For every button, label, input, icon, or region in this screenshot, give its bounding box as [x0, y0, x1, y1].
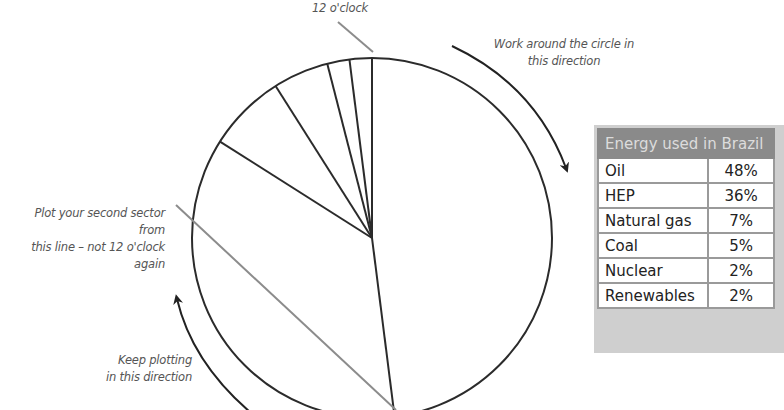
energy-table: Energy used in Brazil Oil48% HEP36% Natu… — [597, 128, 775, 309]
annotation-text: Keep plotting — [100, 352, 192, 369]
annotation-text: this direction — [484, 53, 644, 70]
row-label: Coal — [598, 233, 708, 258]
row-label: HEP — [598, 183, 708, 208]
row-value: 2% — [708, 258, 774, 283]
sector-lines — [220, 58, 395, 410]
annotation-text: 12 o'clock — [312, 0, 368, 17]
row-value: 7% — [708, 208, 774, 233]
row-label: Natural gas — [598, 208, 708, 233]
row-value: 5% — [708, 233, 774, 258]
annotation-second-sector: Plot your second sector from this line –… — [8, 205, 165, 273]
table-row: HEP36% — [598, 183, 774, 208]
row-value: 48% — [708, 158, 774, 183]
annotation-text: in this direction — [100, 369, 192, 386]
table-row: Oil48% — [598, 158, 774, 183]
row-label: Oil — [598, 158, 708, 183]
sector-line-gas-end — [276, 86, 372, 238]
annotation-work-around: Work around the circle in this direction — [484, 36, 644, 70]
sector-line-nuclear-end — [349, 59, 372, 238]
sector-line-hep-end — [220, 142, 372, 238]
leader-line-12-oclock — [338, 22, 373, 52]
annotation-keep-plotting: Keep plotting in this direction — [100, 352, 192, 386]
row-value: 36% — [708, 183, 774, 208]
sector-line-oil-end — [372, 238, 395, 410]
table-header: Energy used in Brazil — [598, 129, 774, 158]
sector-line-coal-end — [327, 64, 372, 238]
table-row: Nuclear2% — [598, 258, 774, 283]
annotation-text: this line – not 12 o'clock — [8, 239, 165, 256]
annotation-text: Plot your second sector from — [8, 205, 165, 239]
row-value: 2% — [708, 283, 774, 308]
annotation-text: again — [8, 256, 165, 273]
leader-line-second-sector — [176, 205, 396, 410]
table-row: Natural gas7% — [598, 208, 774, 233]
annotation-text: Work around the circle in — [484, 36, 644, 53]
annotation-12-oclock: 12 o'clock — [312, 0, 368, 17]
table-row: Renewables2% — [598, 283, 774, 308]
row-label: Nuclear — [598, 258, 708, 283]
row-label: Renewables — [598, 283, 708, 308]
table-row: Coal5% — [598, 233, 774, 258]
